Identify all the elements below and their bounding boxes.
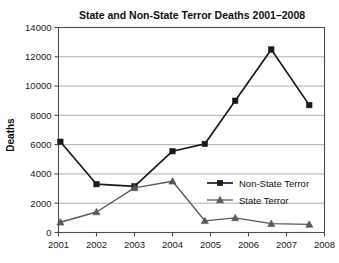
y-tick-label: 0 (46, 227, 51, 238)
y-tick-label: 8000 (30, 110, 51, 121)
data-point-marker (307, 102, 312, 107)
data-point-marker (269, 47, 274, 52)
chart-title: State and Non-State Terror Deaths 2001–2… (79, 9, 305, 21)
x-tick-label: 2007 (276, 239, 297, 250)
data-point-marker (233, 98, 238, 103)
data-point-marker (202, 141, 207, 146)
y-tick-label: 14000 (25, 22, 51, 33)
data-point-marker (94, 181, 99, 186)
data-point-marker (217, 180, 222, 185)
terror-deaths-line-chart: State and Non-State Terror Deaths 2001–2… (0, 0, 339, 263)
data-point-marker (170, 149, 175, 154)
x-tick-label: 2008 (314, 239, 335, 250)
legend-label: Non-State Terror (239, 178, 309, 189)
data-point-marker (58, 139, 63, 144)
x-tick-label: 2006 (238, 239, 259, 250)
x-tick-label: 2004 (162, 239, 183, 250)
x-tick-label: 2001 (48, 239, 69, 250)
y-tick-label: 6000 (30, 139, 51, 150)
y-tick-label: 2000 (30, 198, 51, 209)
legend-label: State Terror (239, 195, 288, 206)
x-tick-label: 2003 (124, 239, 145, 250)
y-tick-label: 12000 (25, 51, 51, 62)
y-tick-label: 10000 (25, 80, 51, 91)
chart-container: State and Non-State Terror Deaths 2001–2… (0, 0, 339, 263)
x-tick-label: 2002 (86, 239, 107, 250)
x-tick-label: 2005 (200, 239, 221, 250)
y-tick-label: 4000 (30, 168, 51, 179)
y-axis-title: Deaths (5, 118, 16, 152)
